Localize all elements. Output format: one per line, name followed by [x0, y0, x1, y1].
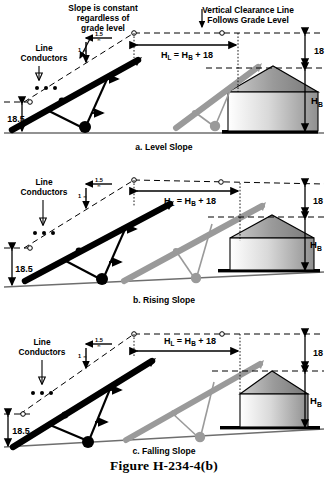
slope-run-unit: m [98, 344, 101, 348]
slope-note-line-1: Slope is constant [68, 3, 138, 13]
conductor-dots [31, 391, 53, 395]
hl-equation: HL = HB + 18 [164, 196, 216, 207]
line-conductors-label-2: Conductors [21, 187, 68, 197]
grain-bin [240, 371, 308, 427]
slope-note-line-2: regardless of [77, 13, 130, 23]
hl-equation: HL = HB + 18 [161, 50, 213, 61]
panel-a-caption: a. Level Slope [135, 142, 193, 152]
hl-equation: HL = HB + 18 [164, 336, 216, 347]
dim-hb-label: HB [310, 239, 322, 252]
figure-h-234-4b: 1.5 m 1 m Slope is constant regardless o… [0, 0, 328, 480]
clearance-note-line-2: Follows Grade Level [207, 15, 288, 25]
figure-caption-wrap: Figure H-234-4(b) [0, 458, 328, 480]
conductor-node-clearance [220, 332, 225, 337]
line-conductors-label-1: Line [35, 43, 53, 53]
line-conductors-label-2: Conductors [21, 53, 68, 63]
slope-ratio-indicator [86, 38, 112, 62]
slope-rise-label: 1 [78, 47, 81, 53]
clearance-note-line-1: Vertical Clearance Line [202, 5, 294, 15]
panel-a-drawing: 1.5 m 1 m Slope is constant regardless o… [0, 0, 328, 155]
conductor-dots [33, 231, 55, 235]
slope-note-line-3: grade level [81, 23, 125, 33]
dim-hb-label: HB [310, 395, 322, 408]
dim-18-label: 18 [314, 46, 324, 56]
panel-b-drawing: 1.5 m 1 m Line Conductors HL = HB + 18 1… [0, 155, 328, 310]
conductor-dots [35, 86, 57, 90]
conductor-node-clearance [219, 180, 224, 185]
dim-18-label: 18 [313, 196, 323, 206]
panel-falling-slope: 1.5 m 1 m Line Conductors HL = HB + 18 1… [0, 310, 328, 458]
dim-185-label: 18.5 [7, 114, 25, 124]
conductor-node-low [21, 412, 26, 417]
conductor-node-low [28, 246, 33, 251]
dim-185-label: 18.5 [12, 426, 30, 436]
line-conductors-label-2: Conductors [19, 347, 66, 357]
conductor-node-low [28, 100, 33, 105]
slope-run-label: 1.5 [95, 337, 103, 343]
slope-rise-unit: m [84, 195, 87, 199]
ground-line [4, 272, 324, 287]
dim-hb-label: HB [311, 95, 323, 108]
slope-rise-label: 1 [78, 193, 81, 199]
panel-level-slope: 1.5 m 1 m Slope is constant regardless o… [0, 0, 328, 155]
panel-c-drawing: 1.5 m 1 m Line Conductors HL = HB + 18 1… [0, 310, 328, 458]
slope-run-unit: m [98, 184, 101, 188]
figure-caption: Figure H-234-4(b) [110, 458, 218, 474]
ground-line [4, 429, 324, 447]
panel-b-caption: b. Rising Slope [133, 295, 195, 305]
near-conveyor [25, 201, 174, 285]
slope-run-unit: m [98, 38, 101, 42]
slope-rise-unit: m [84, 355, 87, 359]
slope-rise-label: 1 [78, 353, 81, 359]
conductor-node-clearance [220, 31, 225, 36]
dim-185-label: 18.5 [15, 264, 33, 274]
clearance-line [134, 180, 324, 184]
grain-bin [230, 215, 314, 270]
panel-rising-slope: 1.5 m 1 m Line Conductors HL = HB + 18 1… [0, 155, 328, 310]
line-conductors-label-1: Line [35, 177, 53, 187]
slope-run-label: 1.5 [95, 177, 103, 183]
panel-c-caption: c. Falling Slope [132, 446, 195, 456]
line-conductors-label-1: Line [33, 337, 51, 347]
slope-ratio-indicator [86, 184, 112, 208]
dim-18-label: 18 [313, 348, 323, 358]
